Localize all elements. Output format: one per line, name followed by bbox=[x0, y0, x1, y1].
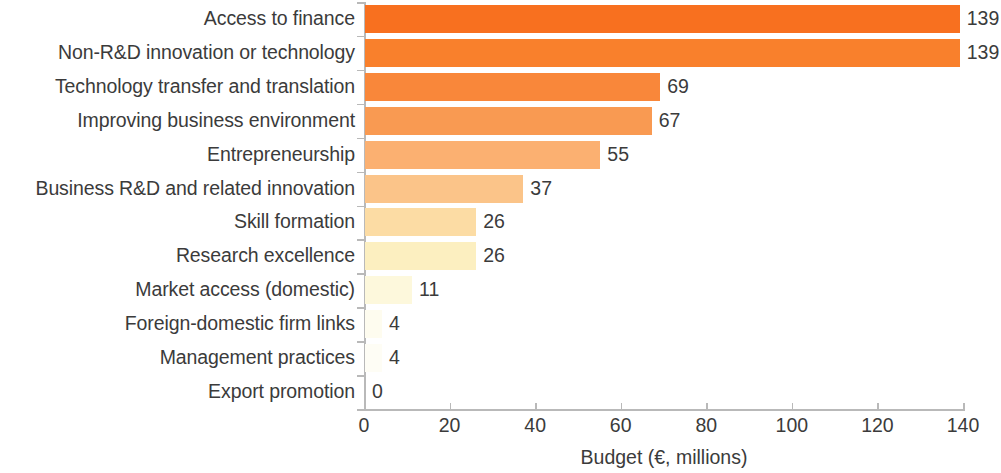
bar-value-label: 69 bbox=[667, 77, 689, 97]
x-axis-tick-label: 0 bbox=[359, 416, 370, 436]
bar-row: Skill formation26 bbox=[0, 206, 1001, 240]
bar-row: Non-R&D innovation or technology139 bbox=[0, 36, 1001, 70]
bar[interactable] bbox=[365, 242, 476, 270]
x-axis-tick-label: 100 bbox=[776, 416, 809, 436]
x-axis-tick-label: 40 bbox=[524, 416, 546, 436]
bar[interactable] bbox=[365, 175, 523, 203]
bar-value-label: 0 bbox=[372, 382, 383, 402]
bar[interactable] bbox=[365, 5, 960, 33]
category-label: Business R&D and related innovation bbox=[35, 179, 355, 199]
x-axis-tick bbox=[535, 403, 537, 411]
x-axis-tick-label: 140 bbox=[947, 416, 980, 436]
bar-row: Entrepreneurship55 bbox=[0, 138, 1001, 172]
x-axis-tick bbox=[621, 403, 623, 411]
bar-value-label: 67 bbox=[659, 111, 681, 131]
category-label: Management practices bbox=[160, 348, 355, 368]
category-label: Market access (domestic) bbox=[135, 281, 355, 301]
bar-value-label: 139 bbox=[967, 43, 1000, 63]
category-label: Access to finance bbox=[204, 9, 355, 29]
x-axis-tick bbox=[877, 403, 879, 411]
bar-row: Export promotion0 bbox=[0, 375, 1001, 409]
bar-row: Improving business environment67 bbox=[0, 104, 1001, 138]
bar-value-label: 139 bbox=[967, 9, 1000, 29]
bar-rows-container: Access to finance139Non-R&D innovation o… bbox=[0, 0, 1001, 410]
x-axis-tick bbox=[706, 403, 708, 411]
x-axis-tick bbox=[364, 403, 366, 411]
bar[interactable] bbox=[365, 73, 660, 101]
bar-value-label: 4 bbox=[389, 314, 400, 334]
bar[interactable] bbox=[365, 276, 412, 304]
bar-value-label: 37 bbox=[530, 179, 552, 199]
category-label: Skill formation bbox=[234, 213, 355, 233]
bar-value-label: 26 bbox=[483, 247, 505, 267]
bar-row: Market access (domestic)11 bbox=[0, 273, 1001, 307]
x-axis-tick bbox=[450, 403, 452, 411]
bar-value-label: 11 bbox=[419, 281, 439, 301]
x-axis-title: Budget (€, millions) bbox=[581, 448, 748, 468]
x-axis-tick-label: 60 bbox=[610, 416, 632, 436]
bar-row: Research excellence26 bbox=[0, 239, 1001, 273]
bar-value-label: 55 bbox=[607, 145, 629, 165]
x-axis-tick bbox=[792, 403, 794, 411]
category-label: Entrepreneurship bbox=[207, 145, 355, 165]
bar[interactable] bbox=[365, 107, 652, 135]
category-label: Improving business environment bbox=[77, 111, 355, 131]
category-label: Export promotion bbox=[208, 382, 355, 402]
bar[interactable] bbox=[365, 310, 382, 338]
category-label: Research excellence bbox=[176, 247, 355, 267]
bar-value-label: 26 bbox=[483, 213, 505, 233]
category-label: Non-R&D innovation or technology bbox=[58, 43, 355, 63]
bar-row: Access to finance139 bbox=[0, 2, 1001, 36]
bar-chart: Access to finance139Non-R&D innovation o… bbox=[0, 0, 1001, 473]
x-axis-tick-label: 120 bbox=[861, 416, 894, 436]
x-axis-tick-label: 20 bbox=[439, 416, 461, 436]
bar[interactable] bbox=[365, 39, 960, 67]
x-axis-tick bbox=[963, 403, 965, 411]
bar[interactable] bbox=[365, 208, 476, 236]
bar[interactable] bbox=[365, 141, 600, 169]
bar-row: Technology transfer and translation69 bbox=[0, 70, 1001, 104]
category-label: Technology transfer and translation bbox=[55, 77, 355, 97]
bar-value-label: 4 bbox=[389, 348, 400, 368]
bar-row: Business R&D and related innovation37 bbox=[0, 172, 1001, 206]
bar[interactable] bbox=[365, 344, 382, 372]
bar-row: Foreign-domestic firm links4 bbox=[0, 307, 1001, 341]
x-axis-tick-label: 80 bbox=[695, 416, 717, 436]
category-label: Foreign-domestic firm links bbox=[125, 314, 355, 334]
y-axis-tick bbox=[357, 409, 364, 411]
bar-row: Management practices4 bbox=[0, 341, 1001, 375]
